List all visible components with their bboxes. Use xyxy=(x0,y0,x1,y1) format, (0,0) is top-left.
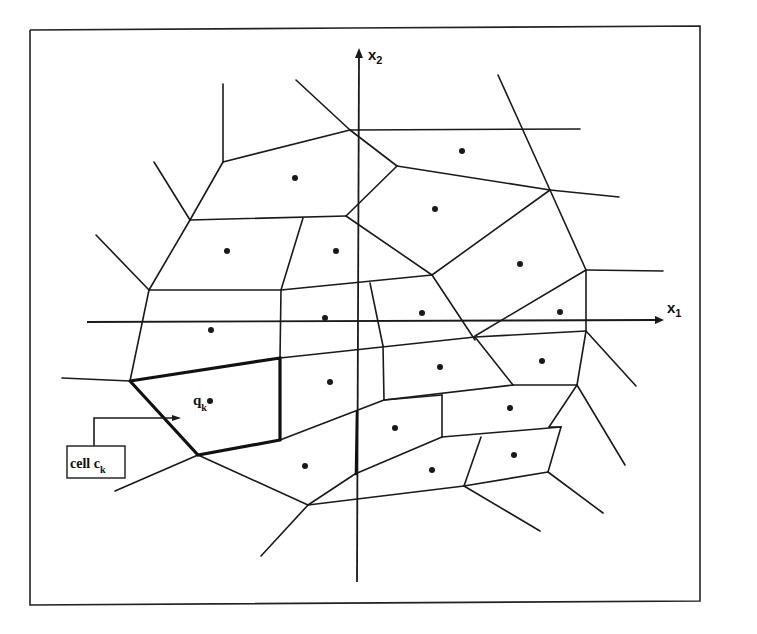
voronoi-edges xyxy=(62,75,663,556)
callout-leader xyxy=(94,418,178,445)
site-qk xyxy=(207,398,213,404)
x2-arrowhead xyxy=(355,48,363,58)
x1-axis-label: x1 xyxy=(667,299,681,319)
x1-axis xyxy=(87,320,655,322)
site-qk-label: qk xyxy=(193,392,207,413)
voronoi-sites xyxy=(207,148,563,473)
x1-arrowhead xyxy=(655,316,664,324)
x2-axis-label: x2 xyxy=(368,46,382,66)
voronoi-diagram: x2 x1 qk cell ck xyxy=(0,0,757,634)
diagram-frame xyxy=(30,26,700,605)
